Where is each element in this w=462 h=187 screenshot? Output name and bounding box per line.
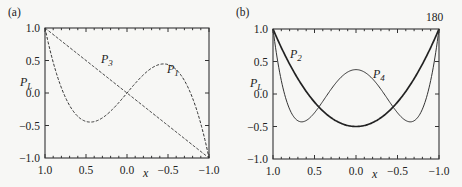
panel-b-xtick-label: 1.0: [266, 165, 281, 177]
panel-b-label: (b): [236, 6, 250, 19]
p4-label: P4: [372, 67, 385, 83]
panel-b-xlabel: x: [371, 167, 378, 181]
panel-b-ytick-label: 0.5: [254, 56, 269, 68]
panel-a-ylabel: PL: [19, 75, 32, 91]
panel-a-xtick-label: −0.5: [158, 164, 179, 176]
panel-b-ytick-label: −0.5: [247, 121, 268, 133]
p2-label: P2: [289, 47, 302, 63]
p4-curve: [273, 29, 439, 122]
figure: 180 (a) 1.0 0.5 0.0 −0.5 −1.0 1.0 0.5 0.…: [0, 0, 462, 187]
panel-a-ytick-label: −0.5: [19, 120, 40, 132]
panel-b-ylabel: PL: [249, 76, 262, 92]
panel-b-axes-frame: [273, 29, 439, 159]
panel-a-xtick-label: −1.0: [199, 164, 220, 176]
panel-a-label: (a): [8, 6, 21, 19]
panel-b-xtick-label: −0.5: [387, 165, 408, 177]
panel-b: (b) 1.0 0.5 0.0 −0.5 −1.0 1.0 0.5 0.0 −0…: [236, 6, 450, 181]
panel-b-ytick-label: 1.0: [254, 23, 269, 35]
p3-label: P3: [100, 52, 113, 68]
panel-a-xtick-label: 0.5: [79, 164, 94, 176]
panel-a: (a) 1.0 0.5 0.0 −0.5 −1.0 1.0 0.5 0.0 −0…: [8, 6, 220, 180]
p1-label: P1: [166, 62, 179, 78]
panel-a-ytick-label: −1.0: [19, 152, 40, 164]
panel-b-ytick-label: −1.0: [247, 153, 268, 165]
panel-b-xtick-label: 0.5: [307, 165, 322, 177]
panel-b-xtick-label: −1.0: [429, 165, 450, 177]
page-number: 180: [426, 11, 444, 23]
p3-curve: [45, 28, 209, 158]
panel-a-xtick-label: 0.0: [120, 164, 135, 176]
panel-b-xtick-label: 0.0: [349, 165, 364, 177]
panel-a-xtick-label: 1.0: [38, 164, 53, 176]
panel-a-xlabel: x: [142, 166, 149, 180]
panel-b-ticks: [273, 29, 439, 159]
p2-curve: [273, 29, 439, 127]
panel-a-ytick-label: 1.0: [26, 22, 41, 34]
panel-a-ytick-label: 0.5: [26, 55, 41, 67]
